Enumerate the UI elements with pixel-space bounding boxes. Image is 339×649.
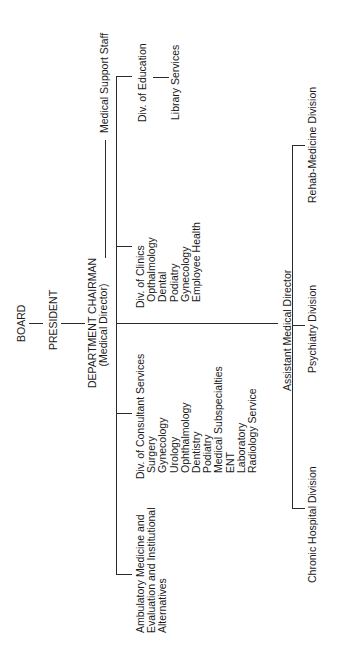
consultant-item: Gynecology xyxy=(157,354,168,479)
psychiatry-division-label: Psychiatry Division xyxy=(307,285,318,373)
education-branch xyxy=(116,76,132,77)
rehab-division-label: Rehab-Medicine Division xyxy=(307,87,318,203)
chronic-division-label: Chronic Hospital Division xyxy=(307,466,318,583)
library-connector xyxy=(153,77,169,78)
div-consultant-services: Div. of Consultant Services Surgery Gyne… xyxy=(135,354,258,479)
psychiatry-connector xyxy=(292,325,305,326)
medical-support-staff-line xyxy=(105,140,106,258)
president-label: PRESIDENT xyxy=(48,290,59,350)
chairman-box: DEPARTMENT CHAIRMAN (Medical Director) xyxy=(87,262,109,388)
medical-support-staff-label: Medical Support Staff xyxy=(99,33,110,133)
assistant-director-connector xyxy=(116,323,278,324)
board-president-connector xyxy=(29,323,43,324)
ambulatory-medicine: Ambulatory Medicine and Evaluation and I… xyxy=(135,507,169,633)
consultant-branch xyxy=(116,413,132,414)
assistant-medical-director-label: Assistant Medical Director xyxy=(282,270,293,391)
chronic-branch xyxy=(292,508,305,509)
board-label: BOARD xyxy=(16,305,27,342)
chairman-spine xyxy=(116,76,117,574)
consultant-item: Radiology Service xyxy=(247,354,258,479)
rehab-branch xyxy=(292,145,305,146)
clinic-item: Dental xyxy=(157,222,168,308)
president-chairman-connector xyxy=(61,323,85,324)
chairman-subtitle: (Medical Director) xyxy=(98,262,109,388)
clinics-branch xyxy=(116,246,132,247)
library-services-label: Library Services xyxy=(170,45,181,120)
ambulatory-line: Alternatives xyxy=(157,507,168,633)
div-education-label: Div. of Education xyxy=(137,43,148,122)
clinic-item: Employee Health xyxy=(191,222,202,308)
ambulatory-branch xyxy=(116,574,132,575)
div-clinics: Div. of Clinics Opthalmology Dental Podi… xyxy=(135,222,202,308)
consultant-item: Medical Subspecialties xyxy=(213,354,224,479)
